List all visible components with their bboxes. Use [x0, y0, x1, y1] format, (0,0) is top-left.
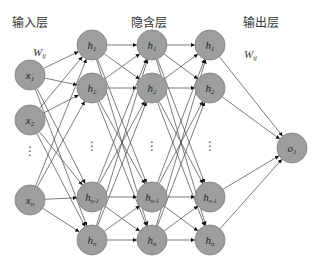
connection-edge [222, 97, 280, 139]
input-layer-label: 输入层 [12, 15, 48, 30]
connection-edge [219, 57, 282, 137]
input-node-xn: xn [15, 185, 45, 215]
connection-edge [45, 198, 77, 200]
connection-edge [40, 57, 83, 109]
input-node-x1: x1 [15, 60, 45, 90]
hidden-node-3-h2: h2 [195, 73, 225, 103]
output-node-o1: o1 [277, 133, 307, 163]
hidden-node-2-h2: h2 [137, 73, 167, 103]
hidden-node-2-hn: hn [137, 225, 167, 255]
output-layer-label: 输出层 [243, 15, 279, 30]
connection-edge [44, 52, 79, 69]
network-nodes: x1x2xn⋮h1h2hn-1hn⋮h1h2hn-1hn⋮h1h2hn-1hn⋮… [15, 30, 307, 255]
hidden-node-2-h1: h1 [137, 30, 167, 60]
input-weight-label: Wij [33, 46, 46, 60]
hidden-node-1-hn: hn [77, 225, 107, 255]
connection-edge [220, 159, 282, 229]
connection-edge [39, 132, 82, 186]
input-node-x2: x2 [15, 105, 45, 135]
hidden-ellipsis-2: ⋮ [146, 139, 158, 153]
hidden-node-1-h2: h2 [77, 73, 107, 103]
hidden-node-3-h1: h1 [195, 30, 225, 60]
hidden-ellipsis-1: ⋮ [86, 139, 98, 153]
hidden-node-3-hn: hn [195, 225, 225, 255]
neural-network-diagram: 输入层 隐含层 输出层 Wij Wtj x1x2xn⋮h1h2hn-1hn⋮h1… [0, 0, 319, 265]
input-ellipsis: ⋮ [24, 144, 36, 158]
connection-edge [45, 78, 78, 85]
connection-edge [43, 208, 80, 232]
connection-edge [223, 156, 279, 190]
hidden-node-1-hn-1: hn-1 [77, 182, 107, 212]
hidden-node-1-h1: h1 [77, 30, 107, 60]
hidden-ellipsis-3: ⋮ [204, 139, 216, 153]
hidden-layer-label: 隐含层 [131, 15, 167, 30]
output-weight-label: Wtj [244, 48, 257, 62]
hidden-node-2-hn-1: hn-1 [137, 182, 167, 212]
hidden-node-3-hn-1: hn-1 [195, 182, 225, 212]
